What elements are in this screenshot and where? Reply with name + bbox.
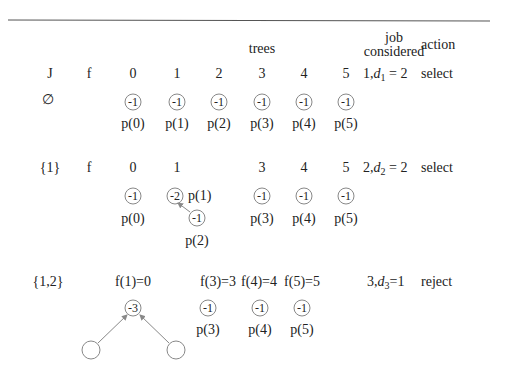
row3-root-node: -3 bbox=[128, 302, 138, 314]
row2-nodes bbox=[125, 188, 354, 226]
row2-f-label: f bbox=[87, 160, 92, 176]
row2-node-0: -1 bbox=[128, 190, 138, 202]
row2-pointer-5: p(5) bbox=[334, 211, 357, 227]
row1-pointer-4: p(4) bbox=[292, 116, 315, 132]
row3-node-4: -1 bbox=[255, 302, 265, 314]
row2-job-considered: 2,d2 = 2 bbox=[363, 160, 407, 180]
row1-node-4: -1 bbox=[299, 96, 309, 108]
row2-node-4: -1 bbox=[299, 190, 309, 202]
index-5: 5 bbox=[343, 66, 350, 82]
row2-node-2: -1 bbox=[192, 212, 202, 224]
row1-node-3: -1 bbox=[257, 96, 267, 108]
row1-pointer-2: p(2) bbox=[207, 116, 230, 132]
row2-node-5: -1 bbox=[341, 190, 351, 202]
row3-arrow-right bbox=[140, 315, 169, 343]
row3-arrow-left bbox=[98, 315, 127, 343]
index-0: 0 bbox=[130, 66, 137, 82]
row2-index-5: 5 bbox=[343, 160, 350, 176]
row2-index-3: 3 bbox=[259, 160, 266, 176]
row1-action: select bbox=[421, 66, 453, 82]
index-3: 3 bbox=[259, 66, 266, 82]
row3-pointer-5: p(5) bbox=[290, 322, 313, 338]
row3-f-value-5: f(5)=5 bbox=[284, 274, 320, 290]
j-column-label: J bbox=[47, 66, 52, 82]
row3-node-3: -1 bbox=[203, 302, 213, 314]
row1-j-empty-set: ∅ bbox=[42, 92, 54, 108]
row1-node-2: -1 bbox=[214, 96, 224, 108]
row1-pointer-3: p(3) bbox=[250, 116, 273, 132]
row2-pointer-4: p(4) bbox=[292, 211, 315, 227]
considered-header: considered bbox=[364, 44, 425, 60]
row3-pointer-3: p(3) bbox=[196, 322, 219, 338]
f-column-label: f bbox=[87, 66, 92, 82]
trees-header: trees bbox=[249, 41, 275, 57]
row3-j-set: {1,2} bbox=[33, 274, 64, 290]
top-rule bbox=[8, 20, 490, 21]
row3-f-value-1: f(1)=0 bbox=[115, 274, 151, 290]
row1-pointer-0: p(0) bbox=[121, 116, 144, 132]
row2-pointer-1: p(1) bbox=[188, 188, 211, 204]
row2-j-set: {1} bbox=[40, 160, 60, 176]
row2-index-1: 1 bbox=[174, 160, 181, 176]
index-1: 1 bbox=[174, 66, 181, 82]
index-4: 4 bbox=[301, 66, 308, 82]
row1-nodes bbox=[125, 94, 354, 110]
row3-node-5: -1 bbox=[297, 302, 307, 314]
action-header: action bbox=[421, 37, 455, 53]
row1-node-5: -1 bbox=[341, 96, 351, 108]
row2-action: select bbox=[421, 160, 453, 176]
row1-pointer-1: p(1) bbox=[165, 116, 188, 132]
row2-pointer-0: p(0) bbox=[121, 211, 144, 227]
row2-index-0: 0 bbox=[130, 160, 137, 176]
row3-f-value-3: f(3)=3 bbox=[200, 274, 236, 290]
row2-index-4: 4 bbox=[301, 160, 308, 176]
row2-node-3: -1 bbox=[257, 190, 267, 202]
row3-pointer-4: p(4) bbox=[248, 322, 271, 338]
row3-f-value-4: f(4)=4 bbox=[241, 274, 277, 290]
row2-pointer-2: p(2) bbox=[185, 233, 208, 249]
row1-node-0: -1 bbox=[128, 96, 138, 108]
row1-pointer-5: p(5) bbox=[334, 116, 357, 132]
index-2: 2 bbox=[216, 66, 223, 82]
row1-job-considered: 1,d1 = 2 bbox=[363, 66, 407, 86]
row2-pointer-3: p(3) bbox=[250, 211, 273, 227]
row2-arrow bbox=[178, 203, 190, 212]
row3-job-considered: 3,d3=1 bbox=[367, 274, 404, 294]
row2-node-1: -2 bbox=[170, 190, 180, 202]
row3-action: reject bbox=[421, 274, 452, 290]
row1-node-1: -1 bbox=[172, 96, 182, 108]
